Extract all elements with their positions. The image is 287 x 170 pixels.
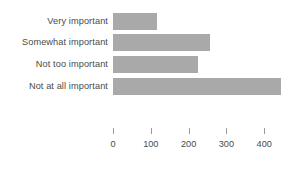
tick-mark-3: [226, 128, 227, 134]
bar-row: Not too important: [0, 56, 287, 73]
tick-label-1: 100: [131, 138, 171, 150]
tick-label-4: 400: [244, 138, 284, 150]
bar-not-too-important: [113, 56, 198, 73]
tick-mark-0: [113, 128, 114, 134]
tick-mark-2: [189, 128, 190, 134]
plot-area: Very important Somewhat important Not to…: [0, 0, 287, 120]
bar-somewhat-important: [113, 34, 210, 51]
category-label: Very important: [0, 13, 108, 30]
tick-label-2: 200: [169, 138, 209, 150]
bar-not-at-all-important: [113, 78, 281, 95]
category-label: Not too important: [0, 56, 108, 73]
tick-mark-1: [151, 128, 152, 134]
bar-row: Not at all important: [0, 78, 287, 95]
bar-row: Somewhat important: [0, 34, 287, 51]
x-axis: 0 100 200 300 400: [0, 128, 287, 170]
tick-label-3: 300: [206, 138, 246, 150]
category-label: Not at all important: [0, 78, 108, 95]
category-label: Somewhat important: [0, 34, 108, 51]
tick-mark-4: [264, 128, 265, 134]
bar-row: Very important: [0, 13, 287, 30]
bar-chart: Very important Somewhat important Not to…: [0, 0, 287, 170]
bar-very-important: [113, 13, 157, 30]
tick-label-0: 0: [93, 138, 133, 150]
